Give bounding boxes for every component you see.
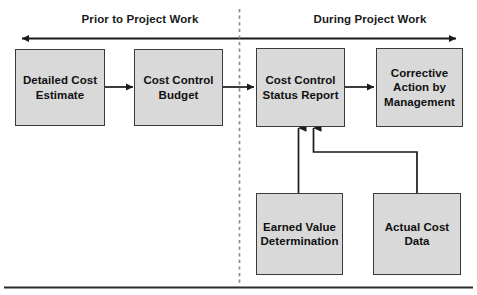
node-cost-control-budget[interactable]: Cost Control Budget <box>134 49 223 126</box>
node-earned-value-determination[interactable]: Earned Value Determination <box>256 193 343 275</box>
node-actual-cost-data[interactable]: Actual Cost Data <box>373 193 461 275</box>
phase-label-during: During Project Work <box>285 13 455 25</box>
node-detailed-cost-estimate[interactable]: Detailed Cost Estimate <box>15 49 105 126</box>
node-cost-control-status-report[interactable]: Cost Control Status Report <box>256 48 345 127</box>
diagram-canvas: Prior to Project Work During Project Wor… <box>0 0 477 295</box>
node-label-actual-cost-data: Actual Cost Data <box>377 220 457 248</box>
node-label-corrective-action-by-management: Corrective Action by Management <box>380 66 459 108</box>
node-label-detailed-cost-estimate: Detailed Cost Estimate <box>19 73 101 101</box>
node-label-cost-control-status-report: Cost Control Status Report <box>260 73 341 101</box>
node-corrective-action-by-management[interactable]: Corrective Action by Management <box>376 48 463 127</box>
node-label-cost-control-budget: Cost Control Budget <box>138 73 219 101</box>
node-label-earned-value-determination: Earned Value Determination <box>260 220 339 248</box>
phase-label-prior: Prior to Project Work <box>55 13 225 25</box>
connector-actual-cost-to-status <box>314 128 418 193</box>
